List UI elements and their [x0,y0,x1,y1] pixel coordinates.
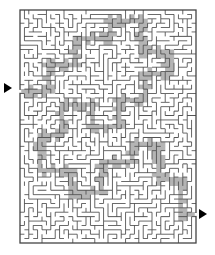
entry-arrow-icon [4,83,12,93]
maze-figure [0,0,215,255]
maze-grid [0,0,215,255]
exit-arrow-icon [199,209,207,219]
